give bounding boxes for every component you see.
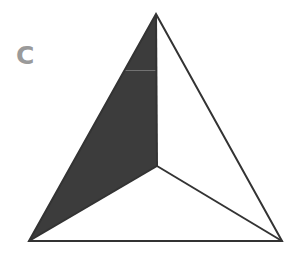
figure-canvas: C bbox=[0, 0, 304, 260]
edge-center-to-bottom-right bbox=[157, 166, 282, 241]
triangle-diagram bbox=[0, 0, 304, 260]
edge-apex-to-center bbox=[156, 14, 157, 166]
